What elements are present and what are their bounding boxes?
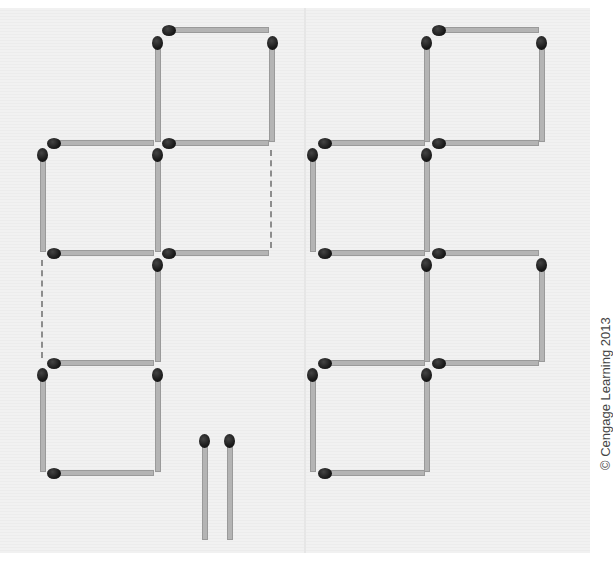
match-vertical <box>424 372 430 472</box>
match-head <box>432 25 446 36</box>
match-head <box>421 148 432 162</box>
match-head <box>152 148 163 162</box>
match-head <box>432 358 446 369</box>
loose-match <box>202 440 208 540</box>
match-horizontal <box>165 250 269 256</box>
match-horizontal <box>321 140 425 146</box>
dashed-gap-line <box>270 150 272 248</box>
match-vertical <box>424 262 430 362</box>
matchstick-figure <box>0 0 613 565</box>
match-head <box>152 36 163 50</box>
match-vertical <box>40 152 46 252</box>
match-head <box>318 358 332 369</box>
match-head <box>47 138 61 149</box>
match-head <box>536 258 547 272</box>
loose-match <box>227 440 233 540</box>
match-head <box>152 258 163 272</box>
match-head <box>267 36 278 50</box>
match-vertical <box>310 152 316 252</box>
match-vertical <box>424 152 430 252</box>
match-head <box>536 36 547 50</box>
match-head <box>47 358 61 369</box>
match-horizontal <box>50 470 154 476</box>
match-head <box>318 138 332 149</box>
match-horizontal <box>435 360 539 366</box>
match-head <box>47 248 61 259</box>
match-horizontal <box>50 360 154 366</box>
match-head <box>152 368 163 382</box>
match-horizontal <box>50 140 154 146</box>
match-vertical <box>424 40 430 142</box>
match-horizontal <box>50 250 154 256</box>
match-horizontal <box>435 250 539 256</box>
match-horizontal <box>435 140 539 146</box>
match-head <box>162 248 176 259</box>
match-head <box>37 368 48 382</box>
match-horizontal <box>321 470 425 476</box>
match-vertical <box>155 152 161 252</box>
match-head <box>318 468 332 479</box>
match-vertical <box>155 40 161 142</box>
match-vertical <box>539 262 545 362</box>
match-head <box>162 138 176 149</box>
match-horizontal <box>435 27 539 33</box>
match-head <box>421 368 432 382</box>
match-vertical <box>155 262 161 362</box>
match-head <box>47 468 61 479</box>
match-head <box>37 148 48 162</box>
match-head <box>421 258 432 272</box>
match-vertical <box>310 372 316 472</box>
match-head <box>432 248 446 259</box>
match-head <box>162 25 176 36</box>
match-horizontal <box>165 140 269 146</box>
match-vertical <box>269 40 275 142</box>
copyright-credit: © Cengage Learning 2013 <box>598 317 613 470</box>
match-head <box>307 368 318 382</box>
match-head <box>199 434 210 448</box>
match-head <box>307 148 318 162</box>
match-head <box>432 138 446 149</box>
match-head <box>421 36 432 50</box>
match-horizontal <box>321 250 425 256</box>
match-vertical <box>155 372 161 472</box>
match-horizontal <box>165 27 269 33</box>
match-vertical <box>40 372 46 472</box>
dashed-gap-line <box>41 260 43 358</box>
match-head <box>224 434 235 448</box>
match-head <box>318 248 332 259</box>
match-vertical <box>539 40 545 142</box>
match-horizontal <box>321 360 425 366</box>
